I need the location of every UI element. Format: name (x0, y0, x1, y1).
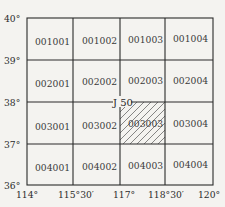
grid-cell-label: 001002 (82, 35, 117, 46)
lat-label: 39° (4, 55, 20, 66)
lon-label: 115°30′ (58, 189, 94, 200)
grid-cell-label: 003004 (173, 118, 208, 129)
grid-cell-label: 001003 (128, 34, 163, 45)
lat-label: 40° (4, 13, 20, 24)
grid-cell-label: 003001 (35, 121, 70, 132)
grid-cell-label: 002001 (35, 78, 70, 89)
grid-cell-label: 002004 (173, 75, 208, 86)
grid-cell-label: 004004 (173, 159, 208, 170)
grid-cell-label: 001001 (35, 36, 70, 47)
lon-label: 120° (198, 189, 220, 200)
map-sheet-grid-diagram: J 50 40° 39° 38° 37° 36° 114° 115°30′ 11… (0, 0, 225, 207)
lon-label: 114° (16, 189, 38, 200)
lat-label: 37° (4, 139, 20, 150)
lon-label: 117° (113, 189, 135, 200)
grid-cell-label: 002002 (82, 76, 117, 87)
grid-cell-label: 001004 (173, 33, 208, 44)
grid-cell-label-highlighted: 003003 (128, 118, 163, 129)
sheet-label: J 50 (112, 97, 133, 108)
grid-cell-label: 004003 (128, 160, 163, 171)
grid-cell-label: 002003 (128, 75, 163, 86)
lon-label: 118°30′ (148, 189, 184, 200)
grid-cell-label: 003002 (82, 120, 117, 131)
lat-label: 38° (4, 97, 20, 108)
grid-cell-label: 004002 (82, 161, 117, 172)
grid-cell-label: 004001 (35, 162, 70, 173)
